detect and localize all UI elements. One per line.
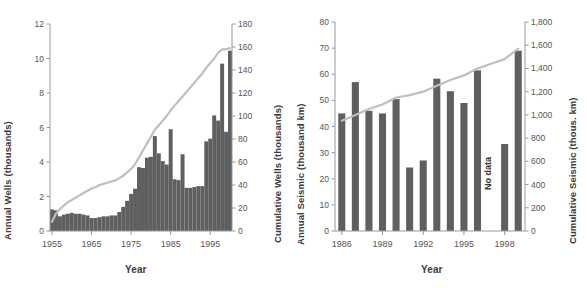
bar [460,103,467,231]
bar [90,218,94,231]
bar [133,189,137,231]
left-tick-label: 70 [320,43,330,53]
right-tick-label: 800 [531,133,545,143]
bar [393,99,400,231]
bar [228,51,232,231]
bar [165,165,169,231]
bar [62,215,66,231]
right-tick-label: 1,200 [531,87,553,97]
x-tick-label: 1995 [200,239,220,249]
left-tick-label: 60 [320,69,330,79]
left-tick-label: 12 [35,19,45,29]
right-tick-label: 600 [531,156,545,166]
x-tick-label: 1989 [372,239,392,249]
bar [420,160,427,231]
bar [204,141,208,231]
bar [447,91,454,231]
bar [196,186,200,231]
right-tick-label: 180 [238,19,252,29]
bar [161,161,165,231]
bar [86,215,90,231]
left-tick-label: 50 [320,95,330,105]
bar [149,157,153,231]
bar [365,111,372,231]
right-tick-label: 120 [238,88,252,98]
right-tick-label: 0 [531,226,536,236]
bar [66,214,70,231]
bar [169,129,173,231]
two-panel-figure: Annual Wells (thousands) Cumulative Well… [0,0,587,288]
left-tick-label: 80 [320,17,330,27]
bar [141,168,145,231]
bar [220,64,224,231]
x-tick-label: 1975 [121,239,141,249]
right-tick-label: 20 [238,203,248,213]
right-tick-label: 1,600 [531,40,553,50]
bar [137,167,141,231]
x-tick-label: 1985 [161,239,181,249]
chart-panel-wells: Annual Wells (thousands) Cumulative Well… [0,0,293,288]
bar [224,132,228,231]
left-tick-label: 6 [39,123,44,133]
x-tick-label: 1965 [82,239,102,249]
seismic-plot-area: 0102030405060708002004006008001,0001,200… [293,0,587,288]
bar [192,187,196,231]
left-tick-label: 4 [39,157,44,167]
bar [338,113,345,231]
bar [113,215,117,231]
bar [433,79,440,231]
bar [121,207,125,231]
bar [173,179,177,231]
bar [188,188,192,231]
bar [74,214,78,231]
bar [125,201,129,231]
left-tick-label: 30 [320,148,330,158]
bar [352,82,359,231]
right-tick-label: 0 [238,226,243,236]
left-tick-label: 0 [324,226,329,236]
cumulative-line [342,49,518,121]
x-tick-label: 1986 [332,239,352,249]
bar [109,215,113,231]
right-tick-label: 1,400 [531,63,553,73]
bar [200,186,204,231]
x-tick-label: 1995 [454,239,474,249]
right-tick-label: 200 [531,203,545,213]
left-tick-label: 0 [39,226,44,236]
left-tick-label: 20 [320,174,330,184]
left-tick-label: 10 [320,200,330,210]
bar [58,216,62,231]
bar [515,51,522,231]
right-tick-label: 140 [238,65,252,75]
bar [153,136,157,231]
right-tick-label: 100 [238,111,252,121]
bar [82,215,86,231]
bar [129,194,133,231]
bar [78,214,82,231]
right-tick-label: 80 [238,134,248,144]
left-tick-label: 2 [39,192,44,202]
x-tick-label: 1955 [42,239,62,249]
chart-panel-seismic: Annual Seismic (thousand km) Cumulative … [293,0,587,288]
bar [474,70,481,231]
right-tick-label: 1,000 [531,110,553,120]
left-tick-label: 10 [35,54,45,64]
bar [157,153,161,231]
bar-group [338,51,521,231]
right-tick-label: 60 [238,157,248,167]
left-tick-label: 40 [320,122,330,132]
bar [145,158,149,231]
bar [216,121,220,231]
left-tick-label: 8 [39,88,44,98]
right-tick-label: 400 [531,180,545,190]
x-tick-label: 1992 [413,239,433,249]
right-tick-label: 160 [238,42,252,52]
bar [70,213,74,231]
bar [117,212,121,231]
bar [379,113,386,231]
bar-group [50,51,232,231]
right-tick-label: 40 [238,180,248,190]
wells-plot-area: 0246810120204060801001201401601801955196… [0,0,293,288]
bar [177,180,181,231]
bar [181,154,185,231]
